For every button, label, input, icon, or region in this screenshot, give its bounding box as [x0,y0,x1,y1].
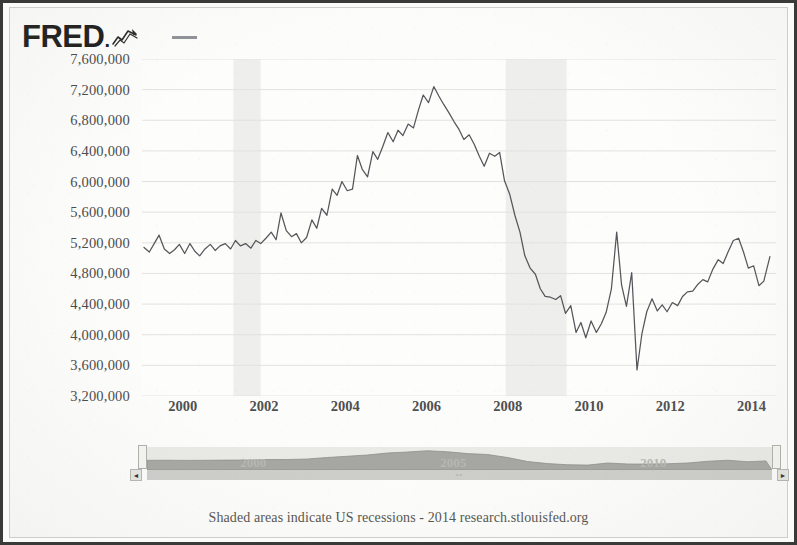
chart-header: FRED. [22,16,197,56]
y-axis-tick-label: 5,600,000 [70,204,130,221]
y-axis-tick-label: 4,000,000 [70,326,130,343]
chart-navigator[interactable]: 2000 2005 2010 ▫▫ ◄ ► [147,447,772,480]
y-axis-tick-label: 6,000,000 [70,173,130,190]
y-axis-tick-label: 3,600,000 [70,357,130,374]
legend-line-swatch-icon [172,36,197,39]
navigator-series-preview[interactable]: 2000 2005 2010 [147,447,772,470]
navigator-handle-left[interactable] [138,445,147,469]
y-axis-tick-label: 4,400,000 [70,296,130,313]
y-axis-tick-label: 6,800,000 [70,112,130,129]
x-axis-tick-label: 2008 [493,398,522,415]
recession-band-1 [506,59,567,396]
chart-plot-area[interactable] [142,59,776,396]
y-axis: 3,200,0003,600,0004,000,0004,400,0004,80… [22,59,136,396]
navigator-scroll-right-button[interactable]: ► [777,469,789,481]
x-axis-tick-label: 2012 [656,398,685,415]
footer-note: Shaded areas indicate US recessions - 20… [209,510,589,525]
x-axis-tick-label: 2010 [575,398,604,415]
fred-chart-screenshot: FRED. 3,200,0003,600,0004,000,0004,400,0… [0,0,797,545]
navigator-scroll-grip-icon: ▫▫ [456,472,463,478]
y-axis-tick-label: 4,800,000 [70,265,130,282]
fred-logo-text: FRED [22,19,104,54]
y-axis-tick-label: 7,200,000 [70,81,130,98]
navigator-area [147,451,772,470]
x-axis-tick-label: 2000 [168,398,197,415]
x-axis-tick-label: 2006 [412,398,441,415]
fred-logo-dot: . [104,29,109,51]
navigator-handle-right[interactable] [772,445,781,469]
x-axis: 20002002200420062008201020122014 [142,398,776,422]
x-axis-tick-label: 2014 [737,398,766,415]
recession-bands [233,59,566,396]
y-axis-tick-label: 5,200,000 [70,234,130,251]
fred-logo[interactable]: FRED. [22,21,109,52]
y-axis-tick-label: 3,200,000 [70,388,130,405]
recession-band-0 [233,59,260,396]
line-chart-glyph-icon [112,27,138,51]
navigator-scrollbar[interactable]: ▫▫ [147,470,772,480]
chart-footer: Shaded areas indicate US recessions - 20… [0,508,797,526]
navigator-scroll-left-button[interactable]: ◄ [130,469,142,481]
y-axis-tick-label: 6,400,000 [70,142,130,159]
x-axis-tick-label: 2004 [331,398,360,415]
x-axis-tick-label: 2002 [249,398,278,415]
